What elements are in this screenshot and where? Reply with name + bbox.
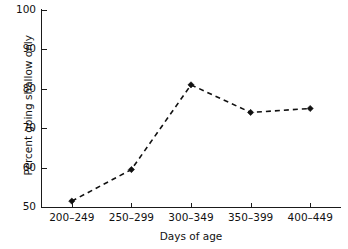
data-point-marker	[128, 166, 134, 172]
data-point-marker	[248, 109, 254, 115]
chart-figure: Percent going shallow only 5060708090100…	[0, 0, 348, 249]
data-point-marker	[307, 105, 313, 111]
data-point-marker	[188, 82, 194, 88]
series-line	[72, 85, 310, 201]
series-markers	[69, 82, 314, 204]
data-point-marker	[69, 198, 75, 204]
x-axis-title: Days of age	[42, 231, 340, 242]
data-series	[0, 0, 348, 249]
